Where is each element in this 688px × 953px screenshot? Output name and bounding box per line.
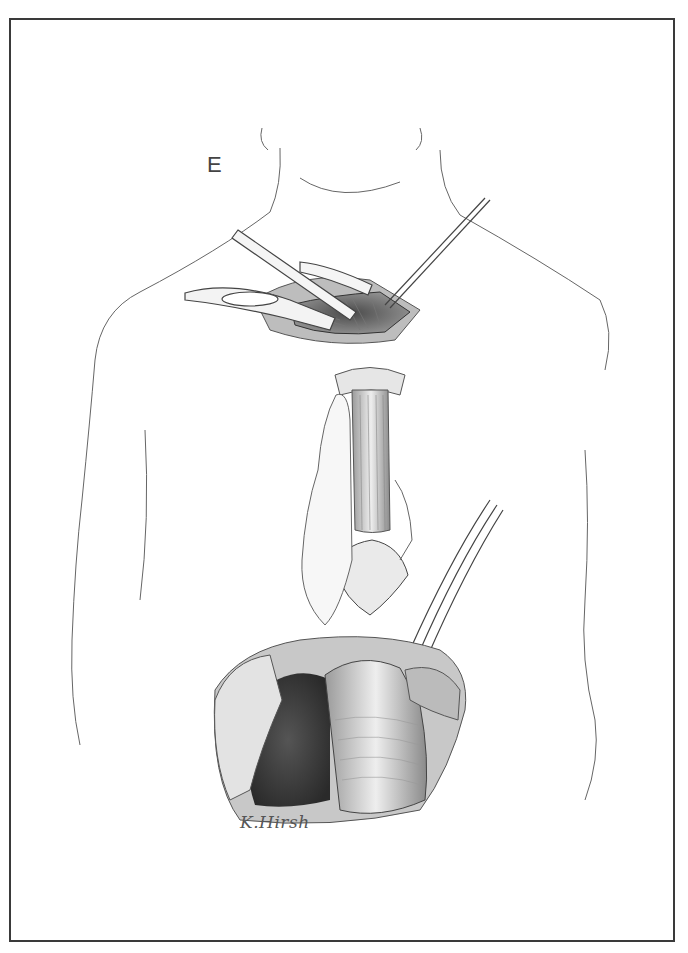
surgical-illustration — [0, 0, 688, 953]
panel-label: E — [207, 152, 222, 178]
abdominal-opening — [214, 637, 465, 824]
artist-signature: K.Hirsh — [240, 812, 310, 832]
probe — [385, 198, 490, 308]
